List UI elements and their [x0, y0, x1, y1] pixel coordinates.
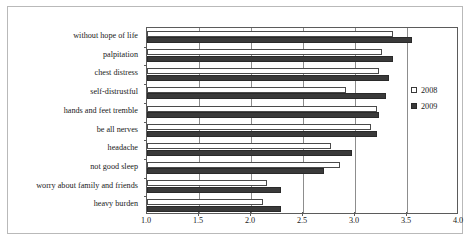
category-label: palpitation: [103, 46, 138, 65]
legend-item-2009: 2009: [411, 98, 461, 114]
category-label: heavy burden: [94, 195, 138, 214]
chart-legend: 20082009: [411, 82, 461, 114]
category-label: not good sleep: [90, 158, 138, 177]
x-tick-label: 2.0: [245, 216, 255, 225]
x-tick-label: 4.0: [453, 216, 463, 225]
bar-group: [147, 28, 457, 47]
bar-2008: [147, 68, 379, 74]
category-tick: [144, 47, 147, 48]
category-tick: [144, 84, 147, 85]
bar-2008: [147, 31, 393, 37]
category-axis-labels: without hope of lifepalpitationchest dis…: [18, 27, 142, 214]
x-axis-tick-labels: 1.01.52.02.53.03.54.0: [146, 216, 458, 232]
legend-item-2008: 2008: [411, 82, 461, 98]
category-label: chest distress: [95, 64, 138, 83]
legend-label: 2009: [421, 102, 437, 111]
bar-2009: [147, 93, 386, 99]
bar-2009: [147, 37, 412, 43]
bar-rows: [147, 28, 457, 213]
category-label: without hope of life: [73, 27, 138, 46]
bar-2009: [147, 112, 379, 118]
category-tick: [144, 159, 147, 160]
category-tick: [144, 140, 147, 141]
bar-2008: [147, 143, 331, 149]
bar-group: [147, 122, 457, 141]
plot-area: [146, 27, 458, 214]
bar-2009: [147, 168, 324, 174]
bar-group: [147, 140, 457, 159]
bar-2008: [147, 49, 382, 55]
bar-2008: [147, 87, 346, 93]
chart-figure: without hope of lifepalpitationchest dis…: [0, 0, 471, 241]
category-label: self-distrustful: [90, 83, 138, 102]
bar-2008: [147, 180, 267, 186]
bar-group: [147, 178, 457, 197]
category-label: headache: [108, 139, 138, 158]
category-label: worry about family and friends: [36, 177, 138, 196]
bar-2008: [147, 199, 263, 205]
filled-square-marker: [411, 103, 417, 109]
bar-2009: [147, 187, 281, 193]
bar-2008: [147, 124, 371, 130]
bar-2009: [147, 131, 377, 137]
x-tick-label: 3.0: [349, 216, 359, 225]
x-tick-label: 3.5: [401, 216, 411, 225]
category-tick: [144, 178, 147, 179]
bar-2009: [147, 206, 281, 212]
bar-2008: [147, 106, 377, 112]
figure-border: without hope of lifepalpitationchest dis…: [7, 6, 463, 234]
bar-2008: [147, 162, 340, 168]
bar-2009: [147, 150, 352, 156]
category-tick: [144, 65, 147, 66]
x-tick-label: 1.5: [193, 216, 203, 225]
bar-group: [147, 47, 457, 66]
category-label: hands and feet tremble: [64, 102, 138, 121]
bar-group: [147, 159, 457, 178]
category-tick: [144, 122, 147, 123]
bar-2009: [147, 56, 393, 62]
open-square-marker: [411, 87, 417, 93]
x-tick-label: 2.5: [297, 216, 307, 225]
category-tick: [144, 196, 147, 197]
category-label: be all nerves: [97, 121, 138, 140]
x-tick-label: 1.0: [141, 216, 151, 225]
legend-label: 2008: [421, 86, 437, 95]
category-tick: [144, 103, 147, 104]
bar-2009: [147, 75, 389, 81]
